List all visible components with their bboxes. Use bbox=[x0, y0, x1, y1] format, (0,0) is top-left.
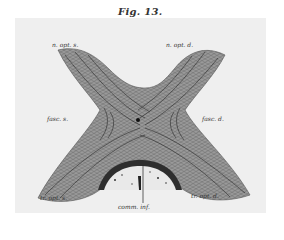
label-fasc-s: fasc. s. bbox=[47, 115, 68, 122]
label-n-opt-s: n. opt. s. bbox=[52, 41, 78, 48]
label-tr-opt-s: tr. opt. s. bbox=[40, 194, 67, 201]
central-dot bbox=[136, 118, 140, 122]
label-comm-inf: comm. inf. bbox=[118, 203, 150, 210]
label-n-opt-d: n. opt. d. bbox=[166, 41, 193, 48]
label-tr-opt-d: tr. opt. d. bbox=[191, 192, 219, 199]
label-fasc-d: fasc. d. bbox=[202, 115, 224, 122]
